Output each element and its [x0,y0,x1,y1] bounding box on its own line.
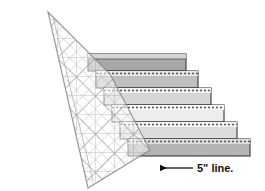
strip-top-edge [88,54,186,59]
figure-canvas: 5" line. [0,0,265,191]
quilting-diagram: 5" line. [0,0,265,191]
annotation-5-inch-line: 5" line. [161,162,233,174]
annotation-label: 5" line. [197,162,233,174]
